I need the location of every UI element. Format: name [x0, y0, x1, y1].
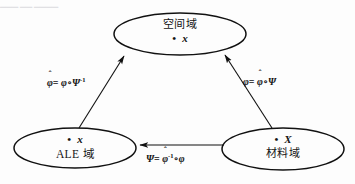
hat-accent-icon: ˆ — [259, 70, 262, 78]
edge-label-ale-to-spatial: ˆφ= φ∘Ψ-1 — [47, 76, 86, 88]
material-domain-title: 材料域 — [222, 148, 344, 160]
arrow-ale-to-spatial — [79, 56, 124, 128]
spatial-point-dot: • — [172, 32, 182, 44]
equals-sign: = — [249, 76, 255, 87]
ale-domain-point: •x — [14, 134, 136, 146]
psi-rhs-symbol: Ψ — [268, 76, 276, 87]
edge-label-material-to-spatial: φ= ˆφ∘Ψ — [243, 76, 276, 87]
spatial-domain-text: 空间域 •x — [115, 19, 245, 44]
spatial-domain-title: 空间域 — [115, 19, 245, 31]
material-point-symbol: X — [284, 133, 291, 145]
psi-inverse-exponent: -1 — [80, 76, 85, 83]
ale-point-symbol: x — [77, 133, 83, 145]
ale-domain-title: ALE 域 — [14, 148, 136, 160]
phi-hat-rhs: ˆφ — [257, 76, 263, 87]
edge-label-material-to-ale: Ψ= ˆφ-1∘φ — [146, 152, 185, 164]
equals-sign: = — [154, 153, 160, 164]
figure-canvas: ▁▁▁ ▁▁ ▁▁▁▁ 空间域 •x •x ALE 域 •X 材料域 — [0, 0, 355, 184]
phi-hat-lhs: ˆφ — [47, 77, 53, 88]
material-domain-text: •X 材料域 — [222, 134, 344, 159]
spatial-point-symbol: x — [182, 32, 188, 44]
material-point-dot: • — [274, 133, 284, 145]
ale-point-dot: • — [67, 133, 77, 145]
material-domain-point: •X — [222, 134, 344, 146]
hat-accent-icon: ˆ — [49, 71, 52, 79]
spatial-domain-point: •x — [115, 33, 245, 45]
hat-accent-icon: ˆ — [164, 147, 167, 155]
psi-lhs-symbol: Ψ — [146, 153, 154, 164]
ale-domain-text: •x ALE 域 — [14, 134, 136, 160]
psi-rhs-symbol: Ψ — [72, 77, 80, 88]
equals-sign: = — [53, 77, 59, 88]
phi-hat-rhs: ˆφ — [162, 153, 168, 164]
phi-rhs-symbol-2: φ — [179, 153, 185, 164]
arrow-material-to-spatial — [225, 55, 272, 128]
